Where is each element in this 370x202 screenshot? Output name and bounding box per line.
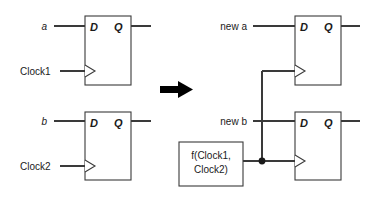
- clock-net-junction-dot: [259, 158, 266, 165]
- circuit-diagram-canvas: a Clock1 D Q b Clock2 D Q: [0, 0, 370, 202]
- left-ff2-d-pin-label: D: [90, 117, 98, 129]
- right-ff1-d-pin-label: D: [300, 21, 308, 33]
- label-clock1: Clock1: [20, 66, 51, 77]
- clock-function-args1: (Clock1,: [194, 150, 231, 161]
- left-ff2-q-pin-label: Q: [114, 117, 123, 129]
- circuit-diagram-svg: a Clock1 D Q b Clock2 D Q: [0, 0, 370, 202]
- label-input-b: b: [41, 116, 47, 127]
- label-input-a: a: [41, 21, 47, 32]
- left-ff1-d-pin-label: D: [90, 21, 98, 33]
- transformation-arrow-icon: [160, 81, 193, 98]
- clock-function-line2: Clock2): [194, 164, 228, 175]
- right-ff1-q-pin-label: Q: [324, 21, 333, 33]
- clock-function-line1: f(Clock1,: [191, 150, 230, 161]
- label-clock2: Clock2: [20, 161, 51, 172]
- left-ff1-q-pin-label: Q: [114, 21, 123, 33]
- label-input-new-a: new a: [220, 21, 247, 32]
- right-ff2-d-pin-label: D: [300, 117, 308, 129]
- right-ff2-q-pin-label: Q: [324, 117, 333, 129]
- label-input-new-b: new b: [220, 116, 247, 127]
